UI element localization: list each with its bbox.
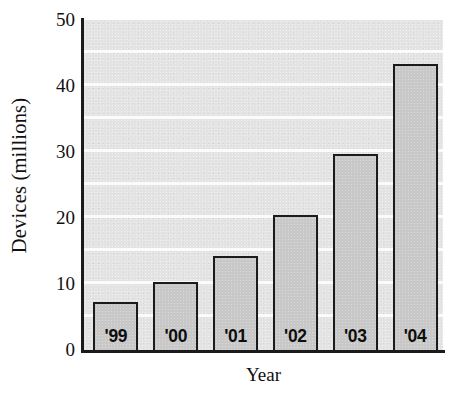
gridline: [84, 182, 443, 185]
gridline: [84, 116, 443, 119]
bar-texture: [335, 156, 376, 350]
gridline: [84, 281, 443, 284]
bar-category-label: '02: [284, 326, 307, 347]
y-axis-tick-label: 10: [56, 273, 75, 295]
bar[interactable]: '99: [93, 302, 138, 350]
y-axis-line: [81, 18, 84, 352]
y-axis-tick-label: 30: [56, 141, 75, 163]
bar[interactable]: '00: [153, 282, 198, 350]
x-axis-line: [81, 350, 445, 353]
bar[interactable]: '04: [393, 64, 438, 350]
plot-texture: [84, 20, 443, 350]
y-axis-title: Devices (millions): [0, 0, 40, 350]
x-axis-title: Year: [84, 364, 443, 386]
y-axis-tick-label: 50: [56, 9, 75, 31]
bar-category-label: '04: [404, 326, 427, 347]
y-axis-tick-label: 20: [56, 207, 75, 229]
bar-category-label: '00: [164, 326, 187, 347]
bar-category-label: '03: [344, 326, 367, 347]
bar-category-label: '99: [105, 326, 128, 347]
bar-category-label: '01: [224, 326, 247, 347]
bar[interactable]: '01: [213, 256, 258, 350]
y-axis-tick-labels: 01020304050: [40, 0, 80, 395]
bar-texture: [395, 66, 436, 350]
gridline: [84, 248, 443, 251]
gridline: [84, 83, 443, 86]
gridline: [84, 149, 443, 152]
y-axis-tick-label: 0: [66, 339, 76, 361]
plot-area: '99'00'01'02'03'04: [84, 20, 443, 350]
bar[interactable]: '03: [333, 154, 378, 350]
gridline: [84, 50, 443, 53]
bar[interactable]: '02: [273, 215, 318, 350]
bar-chart: Devices (millions) 01020304050 '99'00'01…: [0, 0, 449, 395]
y-axis-title-label: Devices (millions): [9, 97, 32, 253]
gridline: [84, 215, 443, 218]
y-axis-tick-label: 40: [56, 75, 75, 97]
